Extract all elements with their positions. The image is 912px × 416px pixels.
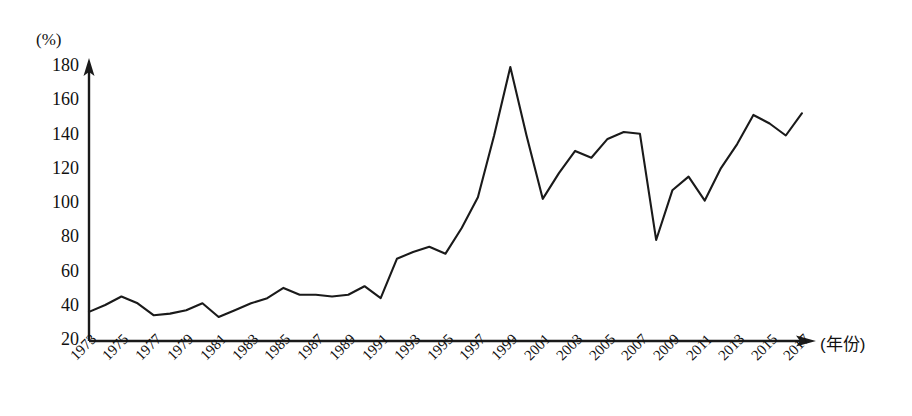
x-axis-title: (年份) (820, 330, 865, 355)
y-axis-tick-label: 60 (33, 261, 79, 282)
y-axis-tick-label: 140 (33, 124, 79, 145)
data-series-group (89, 67, 802, 317)
data-series-line (89, 67, 802, 317)
axes-group (84, 58, 817, 347)
y-axis-tick-label: 80 (33, 226, 79, 247)
chart-container: (%) 18016014012010080604020 197319751977… (0, 0, 912, 416)
y-axis-tick-label: 100 (33, 192, 79, 213)
y-axis-tick-label: 180 (33, 55, 79, 76)
y-axis-tick-label: 40 (33, 295, 79, 316)
y-axis-tick-label: 120 (33, 158, 79, 179)
y-axis-tick-label: 160 (33, 89, 79, 110)
